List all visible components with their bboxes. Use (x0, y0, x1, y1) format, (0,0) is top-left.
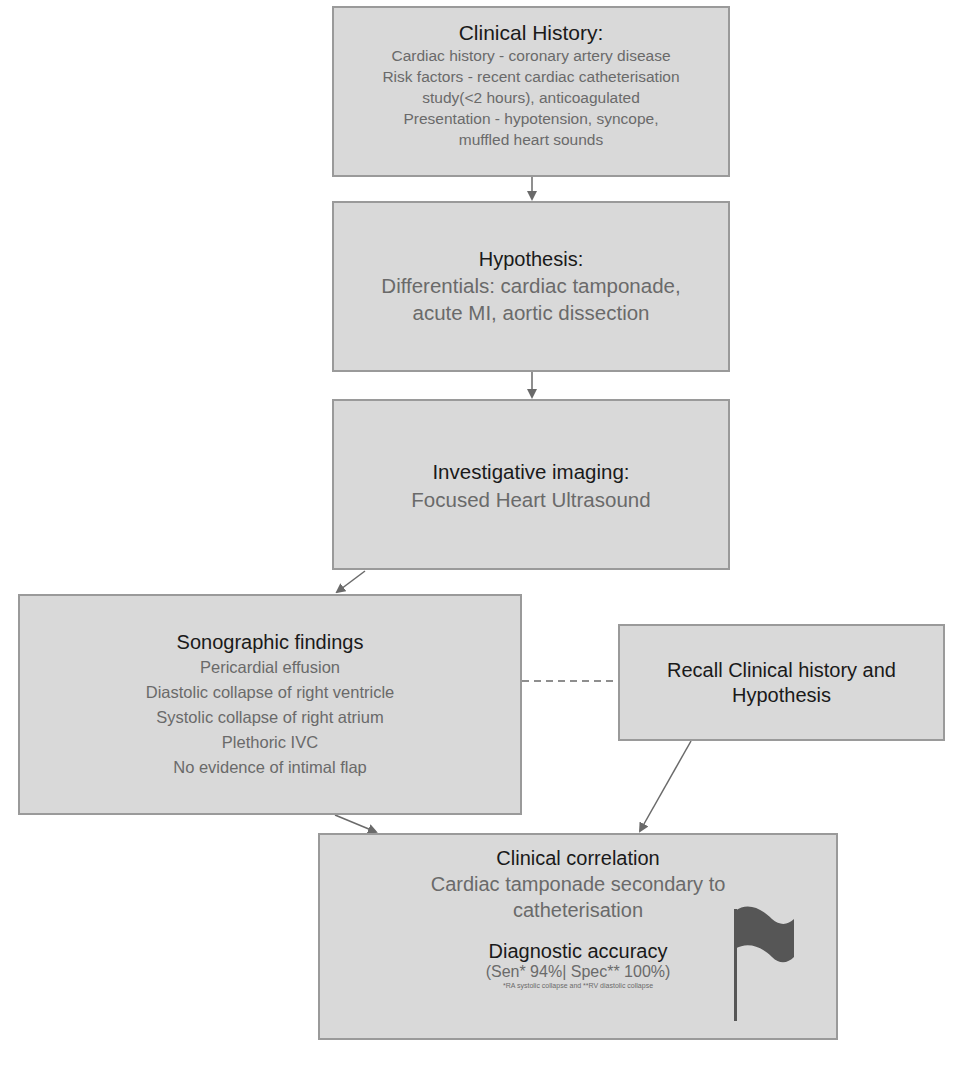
node-line: muffled heart sounds (459, 129, 603, 150)
node-title: Investigative imaging: (432, 457, 629, 486)
node-title: Recall Clinical history and (667, 658, 896, 683)
edge-recall-to-correlation (640, 741, 691, 831)
node-line: Diastolic collapse of right ventricle (146, 680, 395, 705)
node-line: Pericardial effusion (200, 655, 340, 680)
node-line: Plethoric IVC (222, 730, 318, 755)
diagnostic-accuracy-title: Diagnostic accuracy (489, 939, 668, 963)
node-title: Sonographic findings (177, 629, 364, 655)
node-line: Presentation - hypotension, syncope, (403, 108, 658, 129)
node-line: Cardiac history - coronary artery diseas… (391, 45, 670, 66)
edge-imaging-to-sonographic (337, 571, 365, 592)
flag-icon (730, 905, 800, 1025)
node-line: acute MI, aortic dissection (413, 299, 650, 326)
node-clinical-history: Clinical History: Cardiac history - coro… (332, 6, 730, 177)
node-hypothesis: Hypothesis: Differentials: cardiac tampo… (332, 201, 730, 372)
node-sonographic-findings: Sonographic findings Pericardial effusio… (18, 594, 522, 815)
node-title: Hypothesis (732, 683, 831, 708)
node-line: Cardiac tamponade secondary to (431, 871, 726, 897)
node-line: Systolic collapse of right atrium (156, 705, 383, 730)
node-title: Hypothesis: (479, 247, 584, 272)
node-line: study(<2 hours), anticoagulated (422, 87, 640, 108)
node-recall-history-hypothesis: Recall Clinical history and Hypothesis (618, 624, 945, 741)
node-line: Risk factors - recent cardiac catheteris… (382, 66, 679, 87)
edge-sonographic-to-correlation (335, 815, 376, 832)
node-line: Focused Heart Ultrasound (411, 486, 650, 513)
node-line: catheterisation (513, 897, 643, 923)
diagnostic-accuracy-value: (Sen* 94%| Spec** 100%) (486, 963, 671, 981)
node-title: Clinical correlation (496, 845, 659, 871)
node-title: Clinical History: (459, 20, 604, 45)
node-line: No evidence of intimal flap (173, 755, 367, 780)
node-line: Differentials: cardiac tamponade, (381, 272, 680, 299)
diagnostic-accuracy-footnote: *RA systolic collapse and **RV diastolic… (503, 981, 653, 990)
node-investigative-imaging: Investigative imaging: Focused Heart Ult… (332, 399, 730, 570)
